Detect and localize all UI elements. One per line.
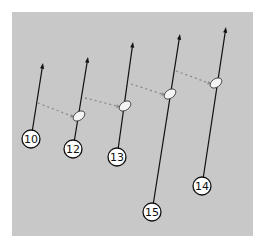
alignment-diagram: 1012131514 xyxy=(0,0,259,252)
dashed-link xyxy=(85,98,120,107)
arrowhead-icon xyxy=(40,63,44,69)
node-label: 12 xyxy=(66,143,80,156)
ellipse-marker xyxy=(71,109,86,123)
node-label: 13 xyxy=(110,151,124,164)
arrowhead-icon xyxy=(223,27,227,33)
axis-line xyxy=(152,39,179,212)
dashed-link xyxy=(38,103,74,117)
arrowhead-icon xyxy=(85,57,89,63)
arrowhead-icon xyxy=(130,42,134,48)
axis-line xyxy=(31,68,42,139)
node-label: 14 xyxy=(195,180,209,193)
ellipse-marker xyxy=(117,99,132,113)
node-label: 15 xyxy=(145,206,159,219)
arrowhead-icon xyxy=(177,34,181,40)
ellipse-marker xyxy=(162,87,177,101)
axis-line xyxy=(202,32,225,186)
ellipse-marker xyxy=(208,76,223,90)
dashed-link xyxy=(131,84,165,95)
node-label: 10 xyxy=(24,133,38,146)
dashed-link xyxy=(176,71,211,84)
axis-line xyxy=(73,62,87,149)
caption-clipped xyxy=(12,246,252,252)
